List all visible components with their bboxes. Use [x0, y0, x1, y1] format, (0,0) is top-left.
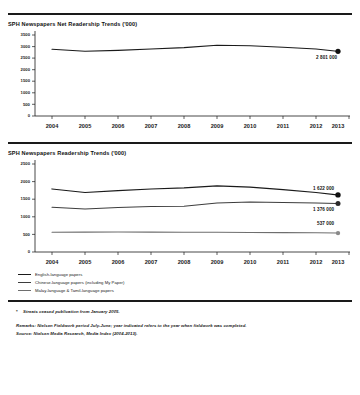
x-tick-label-2008: 2008: [170, 259, 198, 265]
series-end-label-english: 1 622 000: [313, 186, 334, 191]
footnote-marker: *: [16, 309, 23, 314]
y-tick-label: 3500: [8, 32, 30, 37]
x-tick-label-2007: 2007: [137, 123, 165, 129]
x-tick-label-2006: 2006: [104, 259, 132, 265]
chart-net-readership: SPH Newspapers Net Readership Trends ('0…: [8, 21, 352, 128]
middle-divider-rule: [8, 142, 352, 144]
series-end-marker-chinese: [336, 201, 341, 206]
notes-section: * Streats ceased publication from Januar…: [8, 309, 352, 338]
y-tick-label: 1000: [8, 90, 30, 95]
x-tick-marks: [52, 116, 349, 119]
x-tick-label-2007: 2007: [137, 259, 165, 265]
y-tick-label: 2000: [8, 179, 30, 184]
series-end-label-chinese: 1 376 000: [313, 207, 334, 212]
y-tick-label: 1500: [8, 196, 30, 201]
y-tick-label: 2000: [8, 67, 30, 72]
x-tick-label-2011: 2011: [269, 259, 297, 265]
readership-trends-svg: [8, 157, 352, 265]
x-tick-label-2008: 2008: [170, 123, 198, 129]
y-tick-label: 1500: [8, 78, 30, 83]
y-tick-label: 3000: [8, 44, 30, 49]
legend-line-swatch-chinese-icon: [18, 282, 31, 283]
x-tick-label-2005: 2005: [71, 123, 99, 129]
series-line-english: [52, 186, 337, 195]
x-tick-marks: [52, 252, 349, 255]
net-readership-end-marker: [335, 49, 340, 54]
x-tick-label-2010: 2010: [236, 259, 264, 265]
y-tick-marks: [32, 35, 35, 116]
y-tick-label: 0: [8, 113, 30, 118]
x-tick-label-2009: 2009: [203, 123, 231, 129]
y-tick-label: 1000: [8, 214, 30, 219]
legend-label-chinese: Chinese-language papers (including My Pa…: [35, 280, 124, 285]
net-readership-svg: [8, 28, 352, 128]
net-readership-series-line: [52, 45, 337, 51]
source-text: Source: Nielsen Media Research, Media In…: [16, 330, 352, 338]
legend-line-swatch-english-icon: [18, 274, 31, 275]
series-end-marker-english: [335, 192, 340, 197]
net-readership-end-label: 2 801 000: [316, 55, 337, 60]
y-tick-label: 2500: [8, 161, 30, 166]
remarks-block: Remarks: Nielsen Fieldwork period July-J…: [16, 322, 352, 338]
legend-item-malay-tamil: Malay-language & Tamil-language papers: [18, 286, 352, 294]
footnote-streats: * Streats ceased publication from Januar…: [16, 309, 352, 314]
chart-readership-trends-title: SPH Newspapers Readership Trends ('000): [8, 150, 352, 156]
x-tick-label-2004: 2004: [38, 123, 66, 129]
chart-legend: English-language papers Chinese-language…: [8, 270, 352, 294]
x-tick-label-2011: 2011: [269, 123, 297, 129]
y-tick-marks: [32, 164, 35, 252]
x-tick-label-2004: 2004: [38, 259, 66, 265]
x-tick-label-2009: 2009: [203, 259, 231, 265]
x-tick-label-2010: 2010: [236, 123, 264, 129]
x-tick-label-2006: 2006: [104, 123, 132, 129]
chart-readership-trends-plot: 2500 2000 1500 1000 500 0 1 622 000 1 37…: [8, 157, 352, 265]
y-tick-label: 500: [8, 102, 30, 107]
chart-net-readership-title: SPH Newspapers Net Readership Trends ('0…: [8, 21, 352, 27]
series-line-chinese: [52, 202, 337, 209]
bottom-divider-rule: [8, 300, 352, 302]
footnote-text: Streats ceased publication from January …: [23, 309, 120, 314]
y-tick-label: 2500: [8, 55, 30, 60]
legend-label-malay-tamil: Malay-language & Tamil-language papers: [35, 288, 114, 293]
series-end-marker-malay-tamil: [336, 231, 340, 235]
top-divider-rule: [8, 13, 352, 15]
chart-readership-trends: SPH Newspapers Readership Trends ('000): [8, 150, 352, 265]
x-tick-label-2005: 2005: [71, 259, 99, 265]
series-end-label-malay-tamil: 537 000: [317, 221, 334, 226]
chart-net-readership-plot: 3500 3000 2500 2000 1500 1000 500 0 2 80…: [8, 28, 352, 128]
x-tick-label-2013: 2013: [324, 123, 352, 129]
remarks-text: Remarks: Nielsen Fieldwork period July-J…: [16, 322, 352, 330]
legend-line-swatch-malay-tamil-icon: [18, 290, 31, 291]
y-tick-label: 500: [8, 232, 30, 237]
legend-item-english: English-language papers: [18, 270, 352, 278]
y-tick-label: 0: [8, 249, 30, 254]
legend-item-chinese: Chinese-language papers (including My Pa…: [18, 278, 352, 286]
legend-label-english: English-language papers: [35, 272, 82, 277]
x-tick-label-2013: 2013: [324, 259, 352, 265]
report-page: SPH Newspapers Net Readership Trends ('0…: [0, 13, 360, 395]
series-line-malay-tamil: [52, 232, 337, 233]
